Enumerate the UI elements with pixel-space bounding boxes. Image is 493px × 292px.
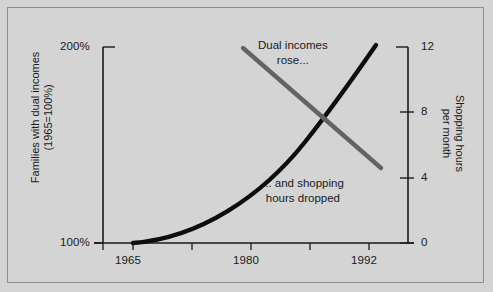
left-axis-title-line1: Families with dual incomes: [29, 37, 42, 197]
annotation-dual-incomes-rose-line2: rose...: [258, 53, 328, 68]
chart-figure: 200% 100% 12 8 4 0 1965 1980 1992 Famili…: [0, 0, 493, 292]
annotation-shopping-hours-dropped-line1: ... and shopping: [262, 176, 344, 191]
left-axis-title: Families with dual incomes (1965=100%): [29, 37, 56, 197]
annotation-shopping-hours-dropped: ... and shopping hours dropped: [262, 176, 344, 206]
left-axis-tick-label-200: 200%: [60, 40, 90, 52]
right-axis-title-line2: per month: [440, 53, 453, 213]
left-axis-tick-label-100: 100%: [60, 236, 90, 248]
right-axis-title-line1: Shopping hours: [453, 53, 466, 213]
annotation-dual-incomes-rose-line1: Dual incomes: [258, 38, 328, 53]
right-axis-title: Shopping hours per month: [440, 53, 467, 213]
x-axis-tick-label-1965: 1965: [115, 254, 141, 266]
x-axis-tick-label-1992: 1992: [351, 254, 377, 266]
right-axis-tick-label-8: 8: [421, 105, 428, 117]
annotation-dual-incomes-rose: Dual incomes rose...: [258, 38, 328, 68]
x-axis-tick-label-1980: 1980: [233, 254, 259, 266]
right-axis-tick-label-0: 0: [421, 236, 428, 248]
left-axis-title-line2: (1965=100%): [42, 37, 55, 197]
series-dual-incomes-curve: [133, 45, 376, 243]
right-axis-tick-label-12: 12: [421, 40, 434, 52]
right-axis-tick-label-4: 4: [421, 171, 428, 183]
annotation-shopping-hours-dropped-line2: hours dropped: [262, 191, 344, 206]
